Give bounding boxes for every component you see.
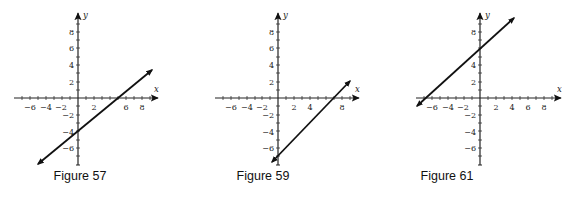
y-tick-label: 6	[69, 44, 74, 53]
y-tick-label: 4	[471, 61, 476, 70]
x-tick-label: 8	[339, 103, 344, 112]
figure-57-caption: Figure 57	[54, 169, 107, 183]
y-tick-label: 8	[269, 28, 274, 37]
x-tick-label: 4	[307, 103, 312, 112]
y-tick-label: −6	[62, 144, 74, 153]
y-tick-label: −6	[464, 144, 476, 153]
y-axis-label: y	[82, 10, 88, 20]
y-tick-label: −4	[464, 128, 476, 137]
plotted-line	[38, 70, 152, 164]
y-tick-label: −2	[262, 111, 274, 120]
x-tick-label: −6	[24, 103, 36, 112]
figure-61-caption: Figure 61	[421, 169, 474, 183]
y-tick-label: 4	[69, 61, 74, 70]
plotted-line	[272, 81, 350, 162]
x-tick-label: −6	[225, 103, 237, 112]
x-axis-label: x	[355, 84, 360, 94]
x-tick-label: 2	[291, 103, 296, 112]
y-tick-label: −2	[464, 111, 476, 120]
x-tick-label: −4	[40, 103, 52, 112]
y-tick-label: 2	[69, 78, 74, 87]
x-axis-label: x	[557, 84, 562, 94]
y-tick-label: 8	[69, 28, 74, 37]
figures-panel: −6 −4 −2 2 6 8 8 6 4 2 −2 −4 −6 x y	[0, 0, 573, 197]
x-axis-label: x	[154, 84, 159, 94]
figure-59-caption: Figure 59	[237, 169, 290, 183]
x-tick-label: 6	[525, 103, 530, 112]
figure-59: −6 −4 −2 2 4 8 8 6 4 2 −2 −4 −6 x y	[215, 10, 360, 165]
plotted-line	[417, 18, 514, 106]
x-tick-label: 6	[123, 103, 128, 112]
y-tick-label: −2	[62, 111, 74, 120]
x-tick-label: 8	[139, 103, 144, 112]
x-tick-label: −4	[442, 103, 454, 112]
figure-61: −6 −4 −2 2 4 6 8 8 4 2 −2 −4 −6 x y	[416, 10, 562, 165]
x-tick-label: −4	[241, 103, 253, 112]
x-tick-label: 4	[509, 103, 514, 112]
y-tick-label: 4	[269, 61, 274, 70]
y-tick-label: 6	[269, 44, 274, 53]
y-axis-label: y	[282, 10, 288, 20]
x-tick-label: −6	[426, 103, 438, 112]
figures-svg: −6 −4 −2 2 6 8 8 6 4 2 −2 −4 −6 x y	[0, 0, 573, 197]
y-tick-label: 2	[471, 78, 476, 87]
y-tick-label: −6	[262, 144, 274, 153]
y-tick-label: −4	[262, 128, 274, 137]
x-tick-label: 2	[493, 103, 498, 112]
x-tick-label: 8	[541, 103, 546, 112]
y-tick-label: 8	[471, 28, 476, 37]
x-tick-label: 2	[91, 103, 96, 112]
y-axis-label: y	[484, 10, 490, 20]
figure-57: −6 −4 −2 2 6 8 8 6 4 2 −2 −4 −6 x y	[14, 10, 159, 165]
y-tick-label: 2	[269, 78, 274, 87]
